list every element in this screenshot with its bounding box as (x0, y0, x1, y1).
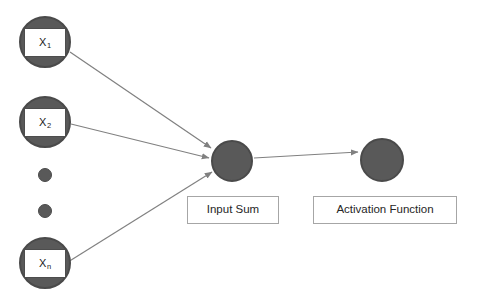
ellipsis-dot-1 (38, 168, 52, 182)
input-label-box-x2: X2 (24, 108, 66, 137)
edge-sum-activation (254, 152, 358, 158)
input-label-box-x1: X1 (24, 28, 66, 57)
edge-x2-sum (71, 124, 209, 158)
input-label-box-xn: Xn (24, 249, 66, 278)
input-label-x2: X2 (39, 117, 51, 128)
activation-function-caption-label: Activation Function (336, 204, 433, 216)
input-sum-caption-box: Input Sum (187, 196, 279, 224)
input-sum-node[interactable] (211, 140, 253, 182)
input-label-xn: Xn (39, 258, 51, 269)
neuron-diagram: X1 X2 Xn Input Sum Activation Function (0, 0, 479, 295)
activation-function-node[interactable] (360, 138, 404, 182)
ellipsis-dot-2 (38, 204, 52, 218)
activation-function-caption-box: Activation Function (313, 196, 457, 224)
input-label-x1: X1 (39, 37, 51, 48)
input-sum-caption-label: Input Sum (207, 204, 259, 216)
edge-x1-sum (70, 52, 211, 148)
